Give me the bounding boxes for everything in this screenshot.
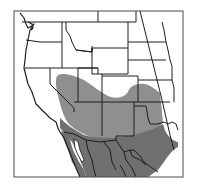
- map-canvas: [0, 0, 198, 193]
- range-map: [0, 0, 198, 193]
